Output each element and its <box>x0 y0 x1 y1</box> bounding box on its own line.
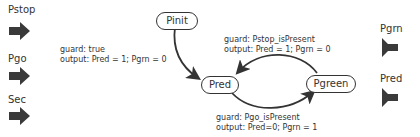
state-pinit[interactable]: Pinit <box>156 12 198 30</box>
input-port-arrow-icon <box>9 22 30 125</box>
input-port-pstop-label: Pstop <box>8 4 35 15</box>
output-port-pgrn-label: Pgrn <box>380 23 403 34</box>
transition-init-label: guard: trueoutput: Pred = 1; Pgrn = 0 <box>60 45 167 65</box>
guard-text: guard: Pstop_isPresent <box>224 35 331 45</box>
state-pred[interactable]: Pred <box>201 76 239 94</box>
output-port-pred-label: Pred <box>380 73 402 84</box>
state-pgreen[interactable]: Pgreen <box>306 75 356 93</box>
transition-green-to-red-label: guard: Pstop_isPresentoutput: Pred = 1; … <box>224 35 331 55</box>
guard-text: guard: true <box>60 45 167 55</box>
output-text: output: Pred = 1; Pgrn = 0 <box>224 45 331 55</box>
output-text: output: Pred=0; Pgrn = 1 <box>216 123 317 133</box>
transition-red-to-green-label: guard: Pgo_isPresentoutput: Pred=0; Pgrn… <box>216 113 317 133</box>
input-port-pgo-label: Pgo <box>8 53 27 64</box>
guard-text: guard: Pgo_isPresent <box>216 113 317 123</box>
output-text: output: Pred = 1; Pgrn = 0 <box>60 55 167 65</box>
diagram-edges <box>0 0 420 137</box>
input-port-sec-label: Sec <box>8 94 26 105</box>
